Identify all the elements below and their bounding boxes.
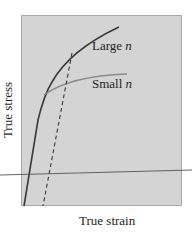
x-axis-label: True strain (79, 213, 135, 229)
y-axis-label: True stress (0, 82, 16, 138)
small-n-label: Small n (92, 76, 132, 92)
large-n-label: Large n (92, 38, 132, 54)
chart-curves (0, 0, 192, 234)
unloading-dashed-line (43, 53, 72, 206)
